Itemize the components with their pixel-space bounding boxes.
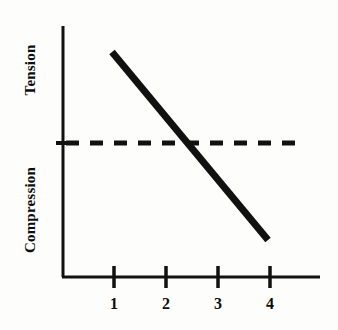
x-tick-label-3: 3 bbox=[214, 296, 222, 312]
x-tick-label-4: 4 bbox=[266, 296, 274, 312]
chart-figure: Tension Compression 1 2 3 4 bbox=[0, 0, 338, 330]
x-tick-label-1: 1 bbox=[110, 296, 118, 312]
x-tick-label-2: 2 bbox=[162, 296, 170, 312]
y-axis-label-tension: Tension bbox=[23, 45, 38, 96]
y-axis-label-compression: Compression bbox=[23, 167, 38, 253]
chart-plot-area bbox=[0, 0, 338, 330]
data-series-stress-line bbox=[112, 52, 268, 240]
